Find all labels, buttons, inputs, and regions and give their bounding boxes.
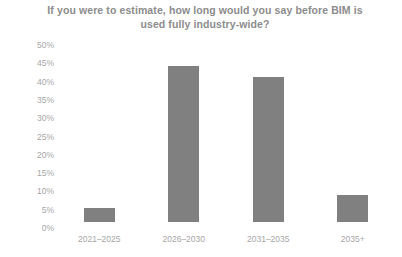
x-axis-tick: 2026–2030 <box>162 234 205 244</box>
x-axis-slot: 2035+ <box>311 228 396 246</box>
chart-title-line-2: used fully industry-wide? <box>140 18 269 30</box>
bar[interactable] <box>84 208 115 222</box>
chart-title: If you were to estimate, how long would … <box>40 4 370 31</box>
y-axis-tick: 20% <box>22 150 54 159</box>
y-axis-tick: 30% <box>22 114 54 123</box>
bar[interactable] <box>337 195 368 222</box>
y-axis-tick: 50% <box>22 41 54 50</box>
bar-slot <box>142 51 227 222</box>
y-axis-tick: 10% <box>22 187 54 196</box>
plot-area <box>57 51 395 222</box>
x-axis-slot: 2031–2035 <box>226 228 311 246</box>
x-axis: 2021–2025 2026–2030 2031–2035 2035+ <box>57 228 395 246</box>
y-axis-tick: 5% <box>22 205 54 214</box>
y-axis-tick: 40% <box>22 77 54 86</box>
y-axis-tick: 45% <box>22 59 54 68</box>
x-axis-slot: 2021–2025 <box>57 228 142 246</box>
bar[interactable] <box>253 77 284 222</box>
y-axis-tick: 35% <box>22 95 54 104</box>
bar-slot <box>57 51 142 222</box>
x-axis-tick: 2031–2035 <box>247 234 290 244</box>
y-axis-tick: 25% <box>22 132 54 141</box>
bar-series <box>57 51 395 222</box>
chart-title-line-1: If you were to estimate, how long would … <box>47 4 362 16</box>
y-axis: 50% 45% 40% 35% 30% 25% 20% 15% 10% 5% 0… <box>22 45 54 228</box>
bar-slot <box>311 51 396 222</box>
y-axis-tick: 15% <box>22 169 54 178</box>
x-axis-slot: 2026–2030 <box>142 228 227 246</box>
bar-chart: If you were to estimate, how long would … <box>0 0 402 257</box>
x-axis-tick: 2021–2025 <box>78 234 121 244</box>
bar-slot <box>226 51 311 222</box>
x-axis-tick: 2035+ <box>341 234 365 244</box>
bar[interactable] <box>168 66 199 222</box>
y-axis-tick: 0% <box>22 224 54 233</box>
